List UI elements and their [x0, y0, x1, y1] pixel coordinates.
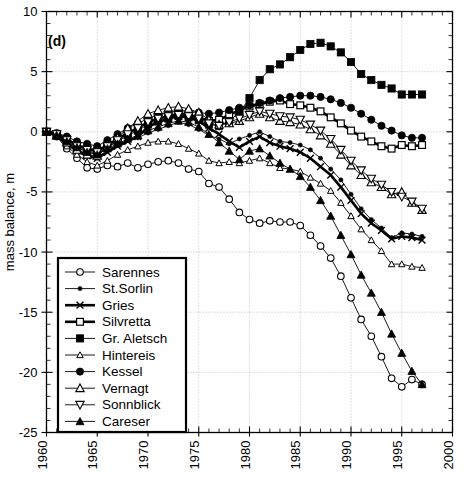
- x-tick-label: 1980: [238, 441, 253, 470]
- y-tick-label: -5: [26, 184, 38, 199]
- x-tick-label: 1970: [136, 441, 151, 470]
- x-tick-label: 1995: [390, 441, 405, 470]
- panel-label: (d): [48, 33, 66, 49]
- x-tick-label: 2000: [441, 441, 456, 470]
- y-tick-label: 5: [30, 64, 37, 79]
- x-tick-label: 1960: [35, 441, 50, 470]
- y-axis-title: mass balance, m: [2, 173, 17, 271]
- y-tick-label: -25: [19, 425, 38, 440]
- legend-label: Careser: [102, 414, 151, 429]
- legend-label: St.Sorlin: [102, 281, 153, 296]
- y-tick-label: -20: [19, 365, 38, 380]
- legend-label: Hintereis: [102, 348, 156, 363]
- mass-balance-chart: 1050-5-10-15-20-251960196519701975198019…: [0, 0, 464, 480]
- y-tick-label: -15: [19, 305, 38, 320]
- legend-label: Sonnblick: [102, 397, 161, 412]
- legend: SarennesSt.SorlinGriesSilvrettaGr. Alets…: [58, 258, 186, 432]
- y-tick-label: 0: [30, 124, 37, 139]
- legend-label: Gries: [102, 298, 135, 313]
- y-tick-label: 10: [23, 4, 37, 19]
- x-tick-label: 1985: [288, 441, 303, 470]
- chart-figure: 1050-5-10-15-20-251960196519701975198019…: [0, 0, 464, 480]
- x-tick-label: 1990: [339, 441, 354, 470]
- x-tick-label: 1965: [85, 441, 100, 470]
- legend-label: Vernagt: [102, 381, 149, 396]
- plot-container: 1050-5-10-15-20-251960196519701975198019…: [0, 0, 464, 480]
- x-tick-label: 1975: [187, 441, 202, 470]
- legend-label: Gr. Aletsch: [102, 331, 167, 346]
- legend-label: Kessel: [102, 364, 143, 379]
- legend-label: Silvretta: [102, 314, 151, 329]
- legend-label: Sarennes: [102, 265, 160, 280]
- y-tick-label: -10: [19, 245, 38, 260]
